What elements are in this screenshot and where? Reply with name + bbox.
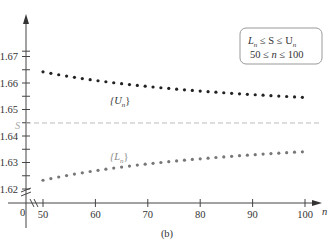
data-point [89, 78, 92, 81]
data-point [57, 175, 60, 178]
data-point [191, 89, 194, 92]
inequality-line-2: 50 ≤ n ≤ 100 [250, 49, 304, 60]
y-axis-arrow-icon [23, 14, 29, 24]
data-point [269, 94, 272, 97]
data-point [285, 95, 288, 98]
data-point [206, 90, 209, 93]
data-point [41, 179, 44, 182]
data-point [96, 169, 99, 172]
data-point [49, 177, 52, 180]
y-tick-label: 1.66 [0, 78, 18, 89]
data-point [277, 152, 280, 155]
data-point [136, 164, 139, 167]
data-point [261, 153, 264, 156]
data-point [191, 158, 194, 161]
data-point [167, 160, 170, 163]
data-point [73, 173, 76, 176]
x-axis-label: n [322, 206, 327, 217]
data-point [144, 163, 147, 166]
data-point [112, 81, 115, 84]
y-tick-label: 1.67 [0, 51, 18, 62]
y-tick-label: 1.64 [0, 131, 19, 142]
data-point [230, 92, 233, 95]
data-point [159, 161, 162, 164]
data-point [57, 73, 60, 76]
data-point [199, 89, 202, 92]
x-tick-label: 80 [195, 209, 206, 220]
data-point [65, 74, 68, 77]
x-tick-label: 50 [38, 209, 49, 220]
origin-label: 0 [20, 207, 25, 218]
data-point [293, 95, 296, 98]
y-tick-label: 1.63 [0, 157, 18, 168]
data-point [269, 152, 272, 155]
data-point [128, 164, 131, 167]
data-point [96, 79, 99, 82]
data-point [41, 70, 44, 73]
x-tick-label: 60 [90, 209, 101, 220]
data-point [144, 85, 147, 88]
x-tick-label: 90 [247, 209, 258, 220]
data-point [104, 80, 107, 83]
figure-caption: (b) [161, 228, 174, 240]
data-point [301, 96, 304, 99]
data-point [104, 168, 107, 171]
data-point [261, 94, 264, 97]
data-point [183, 88, 186, 91]
data-point [128, 83, 131, 86]
data-point [81, 77, 84, 80]
data-point [175, 88, 178, 91]
data-point [222, 155, 225, 158]
data-point [254, 153, 257, 156]
inequality-annotation-box: Ln ≤ S ≤ Un 50 ≤ n ≤ 100 [240, 28, 322, 64]
data-point [89, 170, 92, 173]
data-point [136, 84, 139, 87]
x-axis: 5060708090100 [8, 199, 322, 220]
l-series-label: {Ln} [110, 151, 129, 165]
x-tick-label: 100 [297, 209, 313, 220]
data-point [214, 91, 217, 94]
data-point [65, 174, 68, 177]
data-point [285, 151, 288, 154]
data-point [112, 166, 115, 169]
series-upper-bound-points [41, 70, 304, 99]
data-point [301, 150, 304, 153]
data-point [73, 76, 76, 79]
data-point [81, 171, 84, 174]
data-point [206, 157, 209, 160]
chart-canvas: 1.621.631.641.651.661.67 5060708090100 S… [0, 0, 334, 243]
series-lower-bound-points [41, 150, 304, 182]
data-point [49, 72, 52, 75]
u-series-label: {Un} [110, 95, 130, 109]
data-point [230, 155, 233, 158]
data-point [183, 159, 186, 162]
y-tick-label: 1.62 [0, 184, 18, 195]
data-point [222, 91, 225, 94]
data-point [254, 93, 257, 96]
data-point [238, 92, 241, 95]
x-axis-arrow-icon [312, 200, 322, 206]
data-point [120, 165, 123, 168]
data-point [277, 94, 280, 97]
data-point [214, 156, 217, 159]
data-point [167, 87, 170, 90]
x-tick-label: 70 [143, 209, 154, 220]
data-point [238, 154, 241, 157]
data-point [199, 157, 202, 160]
data-point [246, 154, 249, 157]
data-point [293, 151, 296, 154]
data-point [151, 162, 154, 165]
data-point [175, 159, 178, 162]
s-label: S [15, 120, 21, 131]
y-tick-label: 1.65 [0, 104, 18, 115]
data-point [159, 86, 162, 89]
data-point [246, 93, 249, 96]
data-point [120, 82, 123, 85]
data-point [151, 85, 154, 88]
